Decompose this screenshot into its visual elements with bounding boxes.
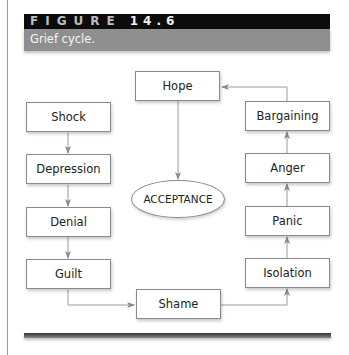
node-denial: Denial	[26, 207, 111, 237]
node-bargaining: Bargaining	[245, 101, 330, 131]
arrow-guilt-to-shame	[68, 290, 134, 305]
node-acceptance: ACCEPTANCE	[131, 180, 225, 218]
arrow-shame-to-isolation	[221, 289, 287, 305]
node-hope: Hope	[135, 71, 220, 101]
node-shock: Shock	[26, 102, 111, 132]
figure-bottom-rule	[24, 333, 331, 338]
node-isolation: Isolation	[245, 258, 330, 288]
node-panic: Panic	[245, 206, 330, 236]
arrow-bargaining-to-hope	[222, 87, 287, 101]
node-shame: Shame	[136, 289, 221, 319]
node-anger: Anger	[245, 153, 330, 183]
node-depression: Depression	[26, 154, 111, 184]
node-guilt: Guilt	[26, 259, 111, 289]
